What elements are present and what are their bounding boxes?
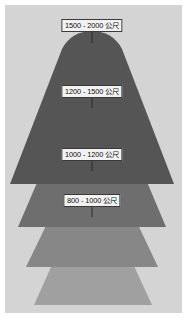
elevation-label-1200-1500: 1200 - 1500 公尺 <box>61 85 122 98</box>
elevation-label-1500-2000: 1500 - 2000 公尺 <box>61 19 122 32</box>
diagram-panel: 1500 - 2000 公尺 1200 - 1500 公尺 1000 - 120… <box>5 5 182 313</box>
elevation-label-800-1000: 800 - 1000 公尺 <box>63 194 120 207</box>
leader-line-zone-1200-1500 <box>92 97 93 108</box>
elevation-zone-figure: 1500 - 2000 公尺 1200 - 1500 公尺 1000 - 120… <box>0 0 187 318</box>
leader-line-zone-1500-2000 <box>92 31 93 43</box>
leader-line-zone-800-1000 <box>92 206 93 217</box>
leader-line-zone-1000-1200 <box>92 160 93 171</box>
elevation-label-1000-1200: 1000 - 1200 公尺 <box>61 148 122 161</box>
